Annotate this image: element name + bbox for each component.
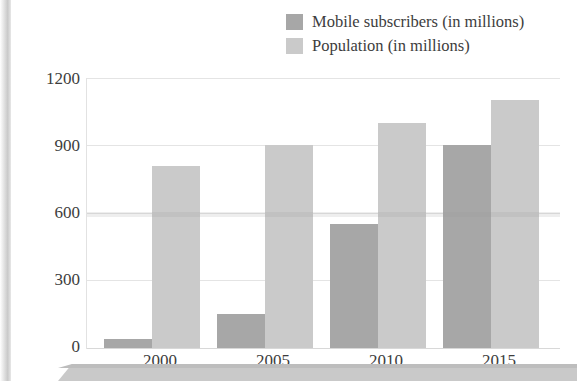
bar-mobile-2015 bbox=[443, 145, 491, 348]
bar-population-2010 bbox=[378, 123, 426, 348]
y-tick-300: 300 bbox=[14, 271, 80, 288]
gridline-1200 bbox=[87, 78, 560, 79]
chart-legend: Mobile subscribers (in millions) Populat… bbox=[286, 10, 576, 58]
legend-swatch-mobile-icon bbox=[286, 14, 303, 30]
x-axis-line bbox=[87, 348, 560, 349]
legend-item-population: Population (in millions) bbox=[286, 34, 576, 58]
bar-mobile-2000 bbox=[104, 339, 152, 348]
page-bottom-band-shade-artifact bbox=[58, 364, 577, 368]
plot-area bbox=[87, 78, 560, 348]
bar-mobile-2005 bbox=[217, 314, 265, 348]
legend-swatch-population-icon bbox=[286, 38, 303, 54]
y-tick-1200: 1200 bbox=[14, 70, 80, 87]
bar-population-2000 bbox=[152, 166, 200, 348]
y-tick-0: 0 bbox=[14, 338, 80, 355]
y-tick-900: 900 bbox=[14, 137, 80, 154]
legend-item-mobile-subscribers: Mobile subscribers (in millions) bbox=[286, 10, 576, 34]
bar-population-2015 bbox=[491, 100, 539, 348]
bar-mobile-2010 bbox=[330, 224, 378, 348]
y-axis-tick-labels: 1200 900 600 300 0 bbox=[8, 0, 80, 381]
bar-population-2005 bbox=[265, 145, 313, 348]
legend-label-population: Population (in millions) bbox=[312, 38, 470, 55]
y-tick-600: 600 bbox=[14, 204, 80, 221]
legend-label-mobile: Mobile subscribers (in millions) bbox=[312, 14, 524, 31]
